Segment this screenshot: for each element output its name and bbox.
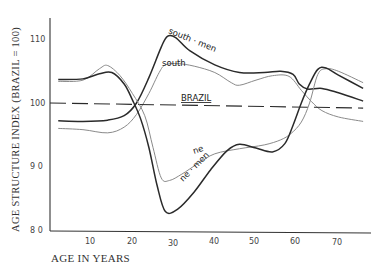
age-structure-chart: 110 100 9 0 8 0 10 20 30 40 50 60 70 AGE… <box>0 0 376 269</box>
y-tick-100: 100 <box>30 99 45 108</box>
x-tick-60: 60 <box>290 237 300 246</box>
x-axis-title: AGE IN YEARS <box>51 252 130 264</box>
x-tick-20: 20 <box>127 237 137 246</box>
series-ne-men <box>58 67 363 213</box>
label-south-men: south · men <box>167 26 218 54</box>
x-tick-70: 70 <box>332 238 342 247</box>
x-tick-10: 10 <box>85 237 95 246</box>
y-tick-80: 8 0 <box>30 226 43 235</box>
x-tick-40: 40 <box>209 237 219 246</box>
label-south: south <box>162 58 186 68</box>
y-tick-90: 9 0 <box>30 162 43 171</box>
x-tick-50: 50 <box>249 237 259 246</box>
series-ne <box>58 65 363 181</box>
label-brazil: BRAZIL <box>181 93 212 103</box>
series-layer <box>50 35 363 213</box>
y-tick-110: 110 <box>30 35 45 44</box>
x-tick-30: 30 <box>168 239 178 248</box>
y-axis-title: AGE STRUCTURE INDEX (BRAZIL = 100) <box>10 27 22 232</box>
y-ticks: 110 100 9 0 8 0 <box>30 35 45 235</box>
x-ticks: 10 20 30 40 50 60 70 <box>85 237 342 248</box>
x-axis <box>50 231 371 233</box>
